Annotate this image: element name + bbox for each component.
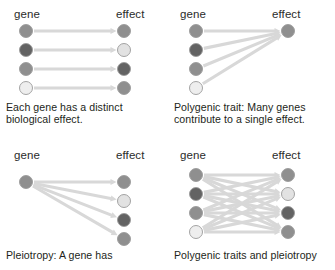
gene-node — [190, 82, 203, 95]
gene-node — [190, 44, 203, 57]
gene-node — [20, 63, 33, 76]
effect-node — [118, 82, 131, 95]
effect-node — [282, 207, 295, 220]
effect-node — [118, 44, 131, 57]
panel-caption: Pleiotropy: A gene has — [6, 249, 113, 261]
effect-node — [118, 25, 131, 38]
panel-caption: Polygenic trait: Many genes contribute t… — [174, 101, 306, 126]
connection-arrow — [203, 33, 281, 67]
panel-pleiotropy: gene effect Pleiotropy: A gene has — [0, 135, 167, 270]
gene-node — [20, 44, 33, 57]
connection-arrow — [34, 85, 117, 91]
gene-node — [20, 176, 33, 189]
connection-arrow — [204, 28, 281, 34]
effect-node — [282, 188, 295, 201]
panel-caption: Polygenic traits and pleiotropy — [174, 249, 335, 261]
effect-node — [118, 63, 131, 76]
connection-arrow — [33, 183, 117, 218]
gene-node — [190, 25, 203, 38]
gene-effect-diagram: gene effect Each gene has a distinct bio… — [0, 0, 335, 270]
gene-node — [190, 207, 203, 220]
effect-node — [282, 226, 295, 239]
effect-node — [118, 233, 131, 246]
effect-node — [118, 195, 131, 208]
connection-arrow — [204, 172, 281, 178]
panel-polygenic-and-pleiotropy: gene effect Polygenic traits and pleiotr… — [168, 135, 335, 270]
effect-node — [282, 25, 295, 38]
connection-arrow — [34, 47, 117, 53]
gene-node — [190, 226, 203, 239]
effect-node — [282, 169, 295, 182]
gene-node — [190, 63, 203, 76]
connection-arrow — [204, 229, 281, 235]
gene-node — [190, 188, 203, 201]
connection-arrow — [34, 66, 117, 72]
gene-node — [20, 25, 33, 38]
gene-node — [20, 82, 33, 95]
effect-node — [118, 176, 131, 189]
connection-arrow — [34, 182, 117, 201]
panel-polygenic-trait: gene effect Polygenic trait: Many genes … — [168, 0, 335, 135]
panel-caption: Each gene has a distinct biological effe… — [6, 101, 123, 126]
panel-distinct-effects: gene effect Each gene has a distinct bio… — [0, 0, 167, 135]
effect-node — [118, 214, 131, 227]
gene-node — [190, 169, 203, 182]
connection-arrow — [34, 179, 117, 185]
connection-arrow — [34, 28, 117, 34]
